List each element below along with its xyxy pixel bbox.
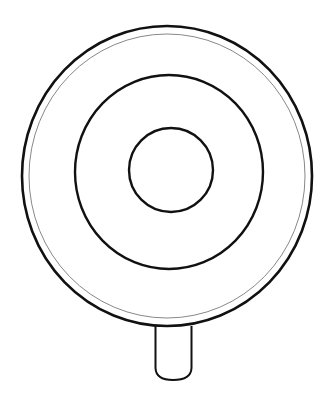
lollipop-svg (0, 0, 331, 406)
stick (156, 326, 192, 380)
outer-circle (22, 26, 312, 326)
lollipop-drawing (0, 0, 331, 406)
